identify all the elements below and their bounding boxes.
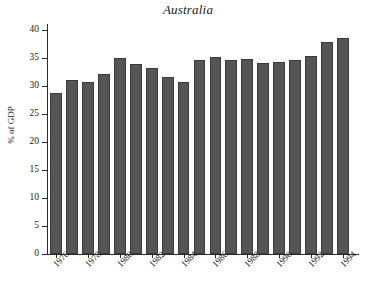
y-tick-label: 35	[30, 53, 40, 63]
y-tick-mark	[42, 86, 47, 87]
bar	[210, 57, 222, 254]
y-tick-label: 40	[30, 25, 40, 35]
y-tick-label: 15	[30, 165, 40, 175]
bar	[114, 58, 126, 254]
y-tick-label: 10	[30, 193, 40, 203]
bar	[66, 80, 78, 254]
y-tick-mark	[42, 198, 47, 199]
y-tick-mark	[42, 254, 47, 255]
y-tick-mark	[42, 58, 47, 59]
bar	[337, 38, 349, 254]
plot-area: 0510152025303540 19761978198019821984198…	[48, 24, 351, 254]
chart-title: Australia	[0, 2, 376, 18]
bar	[241, 59, 253, 254]
bar	[178, 82, 190, 254]
bar	[82, 82, 94, 254]
bar-series	[48, 24, 351, 254]
bar	[225, 60, 237, 254]
y-tick-mark	[42, 30, 47, 31]
y-tick-label: 30	[30, 81, 40, 91]
y-tick-label: 20	[30, 137, 40, 147]
y-tick-label: 25	[30, 109, 40, 119]
y-tick-mark	[42, 170, 47, 171]
y-tick-mark	[42, 226, 47, 227]
y-tick-label: 0	[34, 249, 39, 259]
bar	[273, 62, 285, 254]
bar	[146, 68, 158, 254]
bar	[98, 74, 110, 254]
y-tick-mark	[42, 142, 47, 143]
chart-figure: Australia % of GDP 0510152025303540 1976…	[0, 0, 376, 288]
bar	[130, 64, 142, 254]
y-tick-label: 5	[34, 221, 39, 231]
bar	[162, 77, 174, 254]
bar	[305, 56, 317, 254]
bar	[289, 60, 301, 254]
bar	[50, 93, 62, 254]
bar	[257, 63, 269, 254]
bar	[321, 42, 333, 254]
y-axis-label: % of GDP	[6, 95, 16, 155]
bar	[194, 60, 206, 254]
y-tick-mark	[42, 114, 47, 115]
